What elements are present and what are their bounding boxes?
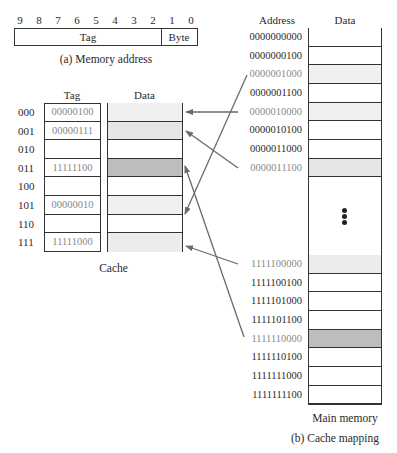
arrow-0000011100-to-001 bbox=[186, 131, 238, 168]
arrow-1111110000-to-011 bbox=[185, 166, 244, 337]
arrow-1111100000-to-111 bbox=[186, 246, 238, 264]
arrow-0000001000-to-101 bbox=[185, 75, 247, 214]
mapping-arrows bbox=[0, 0, 397, 453]
